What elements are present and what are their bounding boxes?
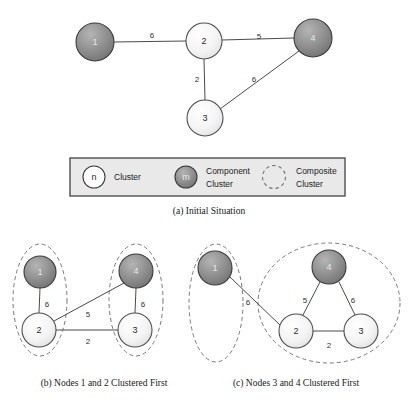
edge-label-b2-b3: 2 [86, 337, 91, 346]
node-c2-label: 2 [293, 326, 298, 336]
node-a3[interactable]: 3 [187, 100, 223, 136]
legend-label-cluster: Cluster [114, 172, 141, 182]
node-a2[interactable]: 2 [186, 23, 222, 59]
node-c3[interactable]: 3 [344, 314, 378, 348]
edge-label-c4-c2: 5 [303, 296, 308, 305]
legend-label-component-line2: Cluster [206, 179, 233, 189]
cluster-circle-icon-label: n [91, 172, 96, 182]
node-c4-label: 4 [326, 262, 331, 272]
component-cluster-circle-icon-label: m [182, 172, 190, 182]
edge-label-a2-a4: 5 [257, 32, 262, 41]
node-c1-label: 1 [212, 263, 217, 273]
node-a3-label: 3 [202, 113, 207, 123]
node-b1[interactable]: 1 [24, 256, 56, 288]
edge-label-c2-c3: 2 [327, 341, 332, 350]
panel-b: 1 2 4 3 6 5 2 6 [13, 244, 163, 356]
node-b2[interactable]: 2 [22, 313, 56, 347]
edge-b4-b3 [135, 288, 136, 313]
node-a2-label: 2 [201, 36, 206, 46]
edge-label-b4-b3: 6 [141, 300, 146, 309]
caption-panel-c: (c) Nodes 3 and 4 Clustered First [233, 378, 359, 389]
edge-label-a3-a4: 6 [252, 75, 257, 84]
legend-label-composite-line1: Composite [296, 166, 337, 176]
node-b4[interactable]: 4 [119, 254, 153, 288]
panel-a: 1 2 4 3 6 5 2 6 [76, 19, 332, 136]
edge-c1-c2 [230, 277, 281, 326]
edge-label-a1-a2: 6 [150, 31, 155, 40]
caption-panel-a: (a) Initial Situation [173, 206, 246, 217]
caption-panel-b: (b) Nodes 1 and 2 Clustered First [41, 378, 168, 389]
node-a4[interactable]: 4 [294, 19, 332, 57]
node-b4-label: 4 [133, 266, 138, 276]
node-a1-label: 1 [92, 37, 97, 47]
edge-a2-a3 [204, 59, 205, 100]
edge-a3-a4 [220, 51, 299, 109]
node-c3-label: 3 [358, 326, 363, 336]
edge-a1-a2 [114, 41, 186, 42]
edge-label-c4-c3: 6 [351, 296, 356, 305]
node-b1-label: 1 [37, 267, 42, 277]
node-a4-label: 4 [310, 33, 315, 43]
clustering-figure-svg: 1 2 4 3 6 5 2 6 n C [0, 0, 418, 407]
legend: n Cluster m Component Cluster Composite … [70, 158, 345, 196]
edge-label-a2-a3: 2 [195, 75, 200, 84]
edge-label-b2-b4: 5 [86, 310, 91, 319]
node-c2[interactable]: 2 [279, 314, 313, 348]
edge-label-c1-c2: 6 [246, 298, 251, 307]
node-b2-label: 2 [36, 325, 41, 335]
node-a1[interactable]: 1 [76, 23, 114, 61]
node-b3-label: 3 [132, 325, 137, 335]
legend-label-composite-line2: Cluster [296, 179, 323, 189]
figure-root: 1 2 4 3 6 5 2 6 n C [0, 0, 418, 407]
node-c1[interactable]: 1 [198, 251, 232, 285]
panel-c: 1 4 2 3 6 5 6 2 [189, 243, 400, 363]
legend-box [70, 158, 345, 196]
node-c4[interactable]: 4 [312, 250, 346, 284]
node-b3[interactable]: 3 [118, 313, 152, 347]
edge-label-b1-b2: 6 [45, 300, 50, 309]
legend-label-component-line1: Component [206, 166, 251, 176]
edge-b1-b2 [39, 288, 40, 313]
